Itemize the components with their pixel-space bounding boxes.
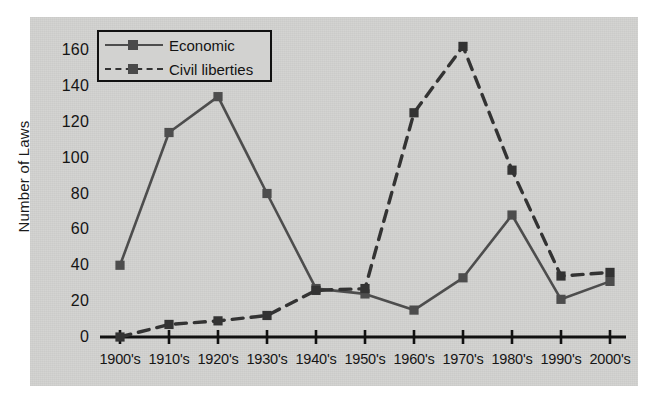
x-axis-tick-label: 1970's [442,351,483,367]
x-axis-tick-label: 1900's [99,351,140,367]
legend-line-dashed-icon [105,62,163,76]
y-axis-tick-label: 0 [43,328,89,346]
series-line-economic [120,97,610,311]
x-axis-tick-label: 1980's [491,351,532,367]
y-axis-tick-label: 120 [43,113,89,131]
data-point-marker [311,286,320,295]
data-point-marker [605,268,614,277]
data-point-marker [556,295,565,304]
y-axis-tick-label: 60 [43,220,89,238]
data-point-marker [115,332,124,341]
data-point-marker [360,284,369,293]
data-point-marker [458,273,467,282]
data-point-marker [507,166,516,175]
data-point-marker [507,210,516,219]
x-axis-tick-label: 2000's [589,351,630,367]
y-axis-label: Number of Laws [15,92,32,262]
x-axis-tick-label: 1930's [246,351,287,367]
x-axis-tick-label: 1920's [197,351,238,367]
legend-label-civil-liberties: Civil liberties [169,61,253,78]
data-point-marker [262,311,271,320]
data-point-marker [262,189,271,198]
y-axis-tick-label: 80 [43,185,89,203]
data-point-marker [605,277,614,286]
legend-label-economic: Economic [169,37,235,54]
y-axis-tick-label: 140 [43,77,89,95]
x-axis-tick-label: 1960's [393,351,434,367]
data-point-marker [115,261,124,270]
data-point-marker [409,305,418,314]
x-axis-tick-label: 1910's [148,351,189,367]
y-axis-tick-label: 40 [43,256,89,274]
chart-legend: Economic Civil liberties [97,30,272,82]
legend-item-civil-liberties: Civil liberties [105,58,253,80]
x-axis-tick-label: 1990's [540,351,581,367]
x-axis-tick-label: 1940's [295,351,336,367]
data-point-marker [409,108,418,117]
y-axis-tick-label: 20 [43,292,89,310]
chart-page: Number of Laws0204060801001201401601900'… [0,0,666,403]
legend-line-solid-icon [105,38,163,52]
data-point-marker [213,316,222,325]
data-point-marker [213,92,222,101]
legend-item-economic: Economic [105,34,235,56]
data-point-marker [556,271,565,280]
y-axis-tick-label: 160 [43,41,89,59]
y-axis-tick-label: 100 [43,149,89,167]
data-point-marker [164,128,173,137]
x-axis-tick-label: 1950's [344,351,385,367]
data-point-marker [164,320,173,329]
data-point-marker [458,42,467,51]
